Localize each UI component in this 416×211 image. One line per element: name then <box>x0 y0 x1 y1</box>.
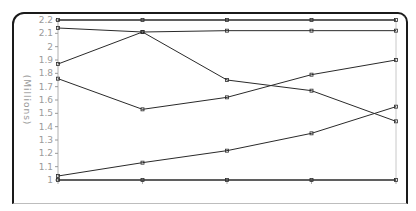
y-tick-label: 2.1 <box>39 28 53 38</box>
y-tick-label: 1.4 <box>39 122 54 132</box>
y-axis: 11.11.21.31.41.51.61.71.81.922.12.2 <box>39 15 58 185</box>
y-axis-title: (Millions) <box>22 75 32 126</box>
y-tick-label: 1 <box>47 175 53 185</box>
series-layer <box>57 19 398 182</box>
y-tick-label: 1.7 <box>39 82 53 92</box>
series-line <box>57 105 398 177</box>
series-line <box>57 27 398 34</box>
y-tick-label: 1.6 <box>39 95 54 105</box>
y-tick-label: 2 <box>47 42 53 52</box>
y-tick-label: 1.3 <box>39 135 53 145</box>
y-tick-label: 1.1 <box>39 162 53 172</box>
series-line <box>57 31 398 123</box>
y-tick-label: 1.9 <box>39 55 54 65</box>
y-tick-label: 1.5 <box>39 108 53 118</box>
series-line <box>57 19 398 22</box>
line-chart: 11.11.21.31.41.51.61.71.81.922.12.2 (Mil… <box>0 0 416 211</box>
y-tick-label: 2.2 <box>39 15 53 25</box>
y-tick-label: 1.8 <box>39 68 54 78</box>
y-tick-label: 1.2 <box>39 148 53 158</box>
